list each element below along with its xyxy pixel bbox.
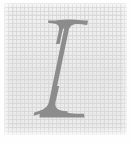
letter-specimen-image: Italic serif capital letter I <box>0 0 132 143</box>
italic-capital-i-bottom-serif <box>39 86 84 118</box>
glyph-layer: Italic serif capital letter I <box>0 0 132 143</box>
italic-capital-i-glyph: Italic serif capital letter I <box>0 0 132 143</box>
